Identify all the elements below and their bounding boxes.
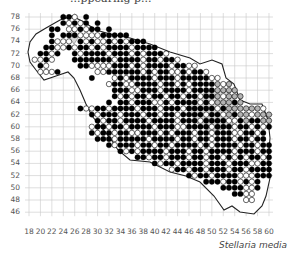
dot-open [181,124,186,129]
dot-filled [95,51,100,56]
dot-open [158,112,163,117]
dot-filled [169,106,174,111]
dot-filled [175,130,180,135]
dot-gray [261,118,266,123]
dot-filled [101,112,106,117]
dot-open [249,179,254,184]
dot-filled [72,20,77,25]
dot-filled [215,112,220,117]
dot-filled [72,57,77,62]
dot-filled [129,75,134,80]
dot-filled [186,118,191,123]
dot-filled [129,57,134,62]
dot-open [203,112,208,117]
dot-filled [181,75,186,80]
dot-filled [226,130,231,135]
dot-open [261,124,266,129]
dot-open [141,63,146,68]
dot-filled [215,124,220,129]
dot-gray [226,100,231,105]
dot-filled [249,118,254,123]
dot-filled [152,45,157,50]
dot-open [112,130,117,135]
dot-filled [118,100,123,105]
dot-filled [123,51,128,56]
dot-filled [129,39,134,44]
dot-filled [221,106,226,111]
dot-open [106,63,111,68]
dot-open [72,45,77,50]
dot-open [255,142,260,147]
y-tick-label: 78 [2,12,20,21]
dot-filled [163,69,168,74]
dot-filled [175,155,180,160]
dot-filled [266,155,271,160]
dot-filled [181,130,186,135]
dot-filled [118,51,123,56]
dot-gray [232,106,237,111]
dot-open [158,161,163,166]
dot-filled [43,45,48,50]
dot-open [232,124,237,129]
dot-filled [118,39,123,44]
dot-filled [175,106,180,111]
dot-open [186,88,191,93]
dot-filled [163,142,168,147]
dot-filled [129,69,134,74]
dot-filled [118,69,123,74]
dot-open [152,69,157,74]
dot-filled [192,106,197,111]
dot-open [95,130,100,135]
dot-filled [135,124,140,129]
dot-filled [78,45,83,50]
dot-open [118,118,123,123]
dot-filled [135,118,140,123]
dot-open [249,185,254,190]
dot-filled [106,57,111,62]
dot-filled [175,167,180,172]
dot-filled [186,161,191,166]
dot-open [129,51,134,56]
dot-filled [163,88,168,93]
dot-open [101,39,106,44]
dot-filled [232,161,237,166]
dot-filled [112,118,117,123]
dot-filled [112,88,117,93]
dot-open [106,81,111,86]
dot-filled [232,100,237,105]
dot-filled [209,149,214,154]
dot-open [49,57,54,62]
dot-filled [215,179,220,184]
dot-filled [255,155,260,160]
dot-filled [135,100,140,105]
dot-filled [203,136,208,141]
dot-filled [169,155,174,160]
dot-filled [146,69,151,74]
dot-filled [141,149,146,154]
dot-open [243,185,248,190]
dot-filled [141,75,146,80]
dot-open [163,94,168,99]
dot-open [152,142,157,147]
dot-filled [238,185,243,190]
dot-filled [141,100,146,105]
dot-open [221,112,226,117]
dot-filled [163,118,168,123]
dot-open [83,33,88,38]
dot-open [112,75,117,80]
dot-filled [181,142,186,147]
dot-filled [106,69,111,74]
dot-filled [78,57,83,62]
dot-filled [181,112,186,117]
dot-filled [221,173,226,178]
dot-filled [192,118,197,123]
dot-filled [146,149,151,154]
dot-filled [175,149,180,154]
dot-open [158,57,163,62]
dot-gray [215,94,220,99]
dot-filled [152,51,157,56]
dot-filled [226,149,231,154]
dot-filled [181,63,186,68]
dot-filled [215,142,220,147]
dot-filled [83,14,88,19]
